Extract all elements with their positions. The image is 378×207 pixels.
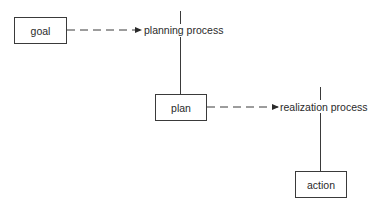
action-box: action [295,171,347,198]
goal-label: goal [31,25,51,37]
plan-label: plan [171,102,191,114]
realization-process-label: realization process [280,101,368,113]
action-label: action [307,179,335,191]
planning-process-label: planning process [144,24,223,36]
plan-box: plan [155,94,207,121]
diagram-canvas: goal planning process plan realization p… [0,0,378,207]
goal-box: goal [14,17,67,44]
